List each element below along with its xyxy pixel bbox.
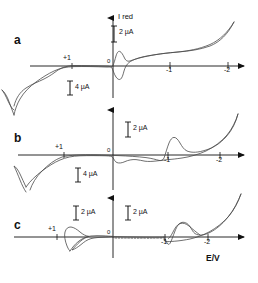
panel-b-scalelabel-upper: 2 µA — [133, 124, 148, 131]
panel-c-scalelabel-right: 2 µA — [133, 208, 148, 215]
panel-a-scalelabel-lower: 4 µA — [75, 83, 90, 90]
panel-b-label-zero: 0 — [107, 147, 110, 153]
panel-b-positive-peak — [14, 166, 26, 192]
panel-a-letter: a — [14, 33, 21, 47]
panel-c-label-minus2: -2 — [204, 238, 210, 245]
panel-c-reverse-sweep — [164, 194, 241, 242]
panel-c-letter: c — [14, 218, 21, 232]
panel-a-scalelabel-upper: 2 µA — [119, 28, 134, 35]
panel-a-label-minus1: -1 — [166, 66, 172, 73]
panel-b-label-plus1: +1 — [55, 143, 63, 150]
voltammogram-plot — [0, 0, 258, 283]
y-axis-label: I red — [118, 12, 133, 21]
panel-b-label-minus1: -1 — [164, 156, 170, 163]
panel-b-label-minus2: -2 — [216, 156, 222, 163]
panel-a-reverse-sweep — [14, 22, 234, 115]
panel-c-label-plus1: +1 — [48, 225, 56, 232]
panel-b-scalelabel-lower: 4 µA — [83, 170, 98, 177]
panel-a-positive-peak — [2, 90, 14, 115]
panel-b-axes — [18, 110, 244, 190]
panel-a-label-minus2: -2 — [224, 66, 230, 73]
panel-b-trace — [14, 114, 238, 192]
panel-b-letter: b — [14, 131, 21, 145]
panel-b-reverse-sweep — [26, 114, 238, 187]
panel-a-label-zero: 0 — [107, 58, 110, 64]
panel-c-label-minus1: -1 — [161, 238, 167, 245]
panel-c-trace — [65, 194, 241, 251]
x-axis-label: E/V — [206, 253, 220, 263]
panel-a-label-plus1: +1 — [63, 54, 71, 61]
panel-c-label-zero: 0 — [107, 229, 110, 235]
panel-a-trace — [2, 22, 234, 115]
panel-c-scalelabel-left: 2 µA — [81, 208, 96, 215]
panel-c-positive-couple — [65, 227, 113, 251]
figure-container: I red a b c +1 0 -1 -2 2 µA 4 µA +1 0 -1… — [0, 0, 258, 283]
